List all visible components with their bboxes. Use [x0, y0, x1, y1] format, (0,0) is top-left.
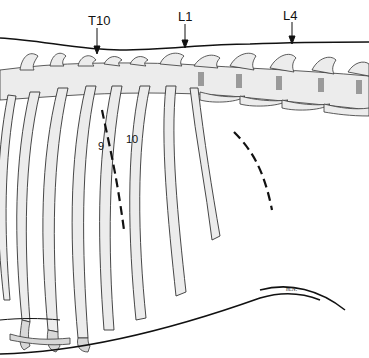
- belly-outline-inner: [260, 287, 345, 310]
- ribs: [0, 86, 220, 338]
- label-l1: L1: [178, 10, 192, 23]
- artist-signature: m.N.: [286, 286, 297, 292]
- skeleton-illustration: [0, 0, 369, 358]
- label-l4: L4: [283, 9, 297, 22]
- dashed-line-right: [234, 132, 272, 210]
- label-rib-10: 10: [126, 134, 138, 145]
- label-t10: T10: [88, 14, 110, 27]
- label-rib-9: 9: [98, 141, 104, 152]
- anatomical-diagram: T10 L1 L4 9 10 m.N.: [0, 0, 369, 358]
